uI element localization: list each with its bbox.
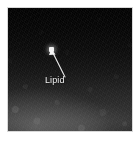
micrograph-figure: Lipid <box>0 0 140 143</box>
lipid-label: Lipid <box>45 75 65 85</box>
lipid-particle <box>49 47 54 52</box>
micrograph-image: Lipid <box>8 8 132 131</box>
micrograph-lower-haze <box>8 8 132 131</box>
